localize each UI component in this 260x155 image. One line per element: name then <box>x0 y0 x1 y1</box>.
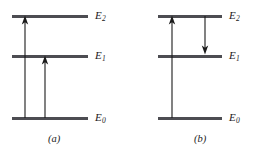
panel-caption-a: (a) <box>48 134 60 145</box>
panel-a: E2 E1 E0 (a) <box>0 0 130 155</box>
energy-level-figure: E2 E1 E0 (a) E2 E1 <box>0 0 260 155</box>
panel-b: E2 E1 E0 (b) <box>130 0 260 155</box>
transition-arrow-e2-to-e1 <box>130 0 260 155</box>
panel-caption-b: (b) <box>194 134 206 145</box>
transition-arrow-e0-to-e1 <box>0 0 130 155</box>
